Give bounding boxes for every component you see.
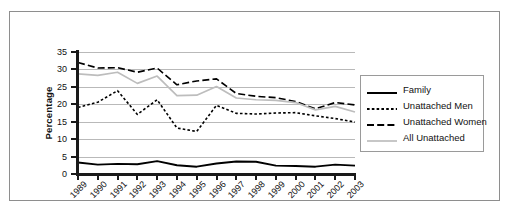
x-tick (235, 175, 237, 180)
legend-swatch-icon (367, 116, 397, 126)
y-tick (71, 103, 76, 105)
x-tick (334, 175, 336, 180)
series-line-unattached-men (78, 91, 355, 132)
x-tick (196, 175, 198, 180)
y-tick-label: 15 (57, 117, 67, 127)
legend-label: Unattached Men (403, 100, 473, 111)
y-axis-title: Percentage (43, 86, 54, 139)
y-tick (71, 51, 76, 53)
y-tick (71, 173, 76, 175)
x-tick (255, 175, 257, 180)
chart-legend: FamilyUnattached MenUnattached WomenAll … (360, 75, 484, 152)
y-tick-label: 30 (57, 64, 67, 74)
series-line-unattached-women (78, 62, 355, 108)
x-tick (354, 175, 356, 180)
y-tick-label: 5 (62, 152, 67, 162)
legend-item-family[interactable]: Family (367, 81, 477, 97)
legend-swatch-icon (367, 84, 397, 94)
y-tick (71, 156, 76, 158)
y-tick-label: 0 (62, 169, 67, 179)
x-tick (176, 175, 178, 180)
legend-item-unattached-men[interactable]: Unattached Men (367, 97, 477, 113)
legend-label: All Unattached (403, 132, 465, 143)
x-tick (97, 175, 99, 180)
y-tick (71, 138, 76, 140)
y-tick (71, 121, 76, 123)
legend-item-all-unattached[interactable]: All Unattached (367, 129, 477, 145)
legend-item-unattached-women[interactable]: Unattached Women (367, 113, 477, 129)
x-tick (77, 175, 79, 180)
x-tick (117, 175, 119, 180)
legend-label: Unattached Women (403, 116, 487, 127)
y-tick-label: 35 (57, 47, 67, 57)
series-line-family (78, 161, 355, 167)
x-tick (275, 175, 277, 180)
legend-swatch-icon (367, 132, 397, 142)
x-tick (136, 175, 138, 180)
chart-frame: Percentage 05101520253035 19891990199119… (9, 11, 500, 201)
series-lines (78, 52, 355, 174)
y-tick-label: 10 (57, 134, 67, 144)
x-tick (156, 175, 158, 180)
x-tick (295, 175, 297, 180)
x-tick (314, 175, 316, 180)
x-tick (216, 175, 218, 180)
legend-label: Family (403, 84, 431, 95)
y-tick-label: 20 (57, 99, 67, 109)
plot-area (78, 52, 355, 174)
y-tick (71, 68, 76, 70)
y-axis-line (76, 50, 79, 176)
legend-swatch-icon (367, 100, 397, 110)
y-tick-label: 25 (57, 82, 67, 92)
y-tick (71, 86, 76, 88)
